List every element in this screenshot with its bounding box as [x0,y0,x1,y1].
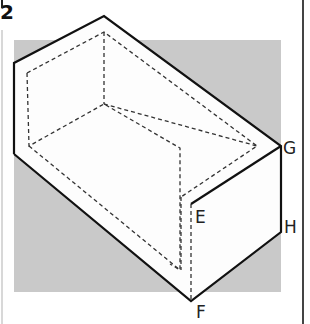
box-diagram: G E H F [0,0,310,324]
label-h: H [284,217,297,237]
label-e: E [195,207,206,227]
label-f: F [196,302,206,322]
label-g: G [283,138,296,158]
